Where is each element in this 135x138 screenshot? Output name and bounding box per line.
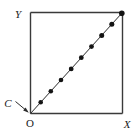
diagram-svg: Y X O C xyxy=(0,0,135,138)
figure-container: Y X O C xyxy=(0,0,135,138)
data-point xyxy=(38,100,43,105)
curve-label-leader xyxy=(16,102,29,113)
curve-label: C xyxy=(4,97,12,109)
data-point xyxy=(49,89,54,94)
x-axis-label: X xyxy=(123,118,132,130)
data-point xyxy=(79,55,84,60)
data-point xyxy=(89,44,94,49)
data-point xyxy=(99,33,104,38)
data-series-c xyxy=(31,10,125,113)
series-line xyxy=(31,13,123,114)
data-point xyxy=(109,22,114,27)
data-point-endpoint xyxy=(119,10,125,16)
data-point xyxy=(69,67,74,72)
origin-label: O xyxy=(26,117,34,129)
y-axis-label: Y xyxy=(15,8,23,20)
data-point xyxy=(59,78,64,83)
